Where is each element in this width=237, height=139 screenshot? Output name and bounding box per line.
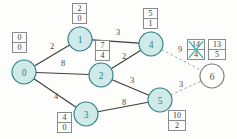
distance-value-6: 14 [188, 40, 204, 50]
distance-value-3: 4 [58, 113, 71, 123]
node-label-6: 6 [210, 72, 215, 82]
distance-value-4: 5 [144, 9, 157, 19]
edge-weight-5-6: 3 [179, 79, 183, 89]
predecessor-value-0: 0 [13, 43, 26, 52]
distance-value-0: 0 [13, 33, 26, 43]
edge-weight-2-5: 3 [130, 75, 134, 85]
node-4[interactable]: 4 [139, 32, 163, 56]
predecessor-value-6: 4 [188, 50, 204, 59]
distance-value-2: 7 [96, 41, 109, 51]
distance-value-5: 10 [169, 111, 185, 121]
edge-weight-0-1: 2 [50, 41, 54, 51]
predecessor-value-5: 2 [169, 121, 185, 130]
node-6[interactable]: 6 [200, 64, 224, 88]
edge-5-6 [171, 81, 201, 95]
distance-label-box-0: 00 [12, 32, 27, 53]
predecessor-value-1: 0 [73, 14, 86, 23]
predecessor-value-4: 1 [144, 19, 157, 28]
graph-svg: 0123456 284323893 [0, 0, 237, 139]
edge-weight-3-5: 8 [122, 97, 126, 107]
distance-label-box-3: 40 [57, 112, 72, 133]
edge-weight-4-6: 9 [178, 44, 182, 54]
edges-layer [34, 40, 201, 112]
edge-weight-0-3: 4 [54, 91, 59, 101]
node-label-4: 4 [149, 40, 154, 50]
edge-weight-2-4: 2 [122, 51, 126, 61]
distance-label-box-6: 144 [187, 39, 205, 60]
node-label-1: 1 [78, 35, 83, 45]
predecessor-value-2: 4 [96, 51, 109, 60]
node-3[interactable]: 3 [74, 102, 98, 126]
distance-label-box-2: 74 [95, 40, 110, 61]
distance-label-box-4: 51 [143, 8, 158, 29]
predecessor-value-3: 0 [58, 123, 71, 132]
node-label-0: 0 [22, 68, 27, 78]
node-label-3: 3 [84, 110, 89, 120]
predecessor-value-6: 5 [209, 50, 225, 59]
node-label-2: 2 [99, 71, 104, 81]
node-1[interactable]: 1 [68, 27, 92, 51]
graph-diagram-canvas: 0123456 284323893 0020744051102144135 [0, 0, 237, 139]
distance-value-6: 13 [209, 40, 225, 50]
edge-weight-1-4: 3 [116, 27, 120, 37]
node-label-5: 5 [158, 96, 163, 106]
edge-weight-0-2: 8 [61, 58, 65, 68]
node-0[interactable]: 0 [12, 60, 36, 84]
distance-label-box-6: 135 [208, 39, 226, 60]
distance-label-box-1: 20 [72, 3, 87, 24]
edge-0-2 [36, 72, 89, 74]
node-5[interactable]: 5 [148, 88, 172, 112]
node-2[interactable]: 2 [89, 63, 113, 87]
distance-label-box-5: 102 [168, 110, 186, 131]
distance-value-1: 2 [73, 4, 86, 14]
